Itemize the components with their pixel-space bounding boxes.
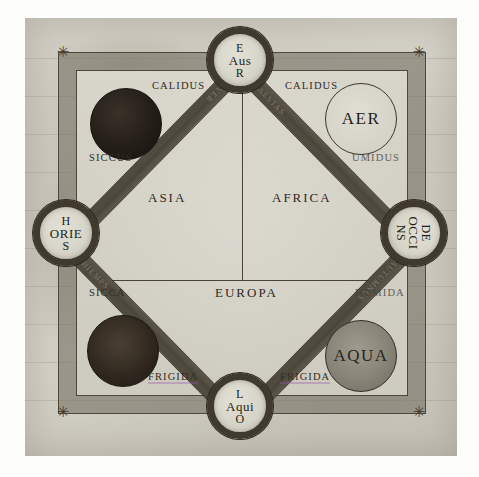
quality-label-sicca: SICCA [89,287,125,298]
quality-label-frigida-left: FRIGIDA [148,371,198,384]
aquilo-line2: Aqui [226,400,254,413]
occidens-line2: OCCI [408,216,421,249]
corner-mark-br-icon: ✳ [411,404,427,420]
asia-africa-divider [242,74,243,280]
quality-label-siccus: SICCUS [89,152,132,163]
manuscript-diagram-page: ✳ ✳ ✳ ✳ VER AESTAS HIEMPS AUTUMNUS AER A… [0,0,479,477]
auster-line3: R [236,67,245,79]
continent-label-asia: ASIA [148,190,186,206]
auster-line2: Aus [229,54,251,67]
quality-label-frigida-right: FRIGIDA [280,371,330,384]
aquilo-line3: O [235,413,244,425]
aquilo-line1: L [236,388,244,400]
element-aer-disc: AER [325,83,397,155]
element-aqua-disc: AQUA [325,320,397,392]
cardinal-medallion-occidens: DE OCCI NS [381,200,447,266]
element-aqua-label: AQUA [333,346,388,366]
auster-line1: E [236,42,244,54]
oriens-line3: S [62,240,69,252]
oriens-line2: ORIE [50,227,82,240]
element-ignis-disc [90,88,162,160]
cardinal-medallion-aquilo: L Aqui O [207,373,273,439]
europa-divider [112,280,374,281]
quality-label-calidus-right: CALIDUS [285,80,338,91]
corner-mark-tr-icon: ✳ [411,44,427,60]
oriens-line1: H [61,215,70,227]
quality-label-humida: HUMIDA [355,287,405,298]
cardinal-medallion-auster: E Aus R [207,27,273,93]
corner-mark-tl-icon: ✳ [55,44,71,60]
occidens-line3: NS [396,225,408,241]
element-aer-label: AER [342,109,381,129]
occidens-line1: DE [421,225,433,242]
continent-label-africa: AFRICA [272,190,332,206]
quality-label-calidus-left: CALIDUS [152,80,205,91]
cardinal-medallion-oriens: H ORIE S [33,200,99,266]
continent-label-europa: EUROPA [215,285,278,301]
corner-mark-bl-icon: ✳ [55,404,71,420]
quality-label-umidus: UMIDUS [352,152,400,163]
